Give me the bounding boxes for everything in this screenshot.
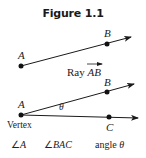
angle-symbol: ∠ [11, 139, 20, 150]
notation-name: A [19, 139, 27, 150]
ray-caption: Ray AB [67, 66, 101, 78]
point-b2 [105, 90, 110, 95]
angle-notations: ∠A ∠BAC angle θ [11, 139, 124, 150]
label-b2: B [104, 76, 111, 88]
ray-ab-line [21, 37, 131, 66]
angle-symbol: ∠ [44, 139, 53, 150]
notation-name: θ [119, 139, 124, 150]
ray-ac-side [21, 115, 138, 118]
angle-figure: A B C θ Vertex [7, 76, 138, 133]
label-a2: A [17, 98, 25, 110]
vertex-label: Vertex [7, 120, 32, 130]
notation-name: BAC [53, 139, 72, 150]
ray-ab-figure: A B Ray AB [17, 27, 131, 78]
ray-caption-prefix: Ray [67, 66, 87, 78]
vertex-point-a [19, 113, 24, 118]
notation-prefix: angle [95, 139, 119, 150]
theta-label: θ [59, 102, 64, 112]
label-a: A [17, 49, 25, 61]
label-b: B [104, 27, 111, 39]
ray-caption-name: AB [86, 66, 101, 78]
point-b [105, 42, 110, 47]
notation-angle-bac: ∠BAC [44, 139, 72, 150]
notation-angle-a: ∠A [11, 139, 27, 150]
point-a [19, 64, 24, 69]
label-c: C [106, 121, 114, 133]
point-c [107, 115, 112, 120]
ray-ab-side [21, 84, 134, 115]
ray-angle-diagram: A B Ray AB A B C θ Vertex ∠A ∠BAC angle … [0, 0, 146, 158]
notation-angle-theta: angle θ [95, 139, 124, 150]
